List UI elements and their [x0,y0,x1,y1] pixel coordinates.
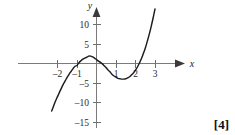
y-tick-label--10: –10 [74,98,90,108]
x-tick-label-3: 3 [153,69,158,79]
x-axis-arrow-icon [175,60,185,68]
curve-line [52,9,155,111]
y-axis-arrow-icon [93,7,101,17]
y-axis-label: y [87,0,93,11]
x-axis-label: x [189,58,195,69]
cubic-curve-plot: –2 –1 1 2 3 10 5 –5 –10 –15 x y [0,0,235,135]
x-tick-label--1: –1 [71,69,82,79]
marks-badge: [4] [214,118,229,131]
y-tick-label--15: –15 [74,118,90,128]
graph-figure: –2 –1 1 2 3 10 5 –5 –10 –15 x y [4] [0,0,235,135]
y-tick-label--5: –5 [79,79,90,89]
y-tick-label-10: 10 [80,20,90,30]
y-tick-label-5: 5 [84,40,89,50]
x-tick-label--2: –2 [52,69,63,79]
